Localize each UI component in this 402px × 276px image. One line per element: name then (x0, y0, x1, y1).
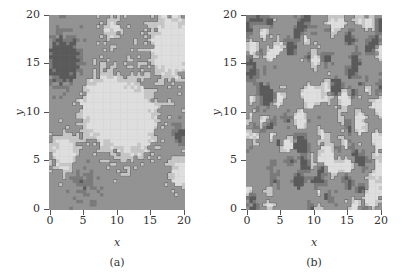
panel-caption: (a) (49, 256, 185, 269)
x-axis-title: x (49, 236, 185, 249)
y-tick-label: 0 (10, 203, 40, 215)
y-tick (241, 209, 246, 210)
x-tick-label: 20 (172, 215, 196, 227)
panel-caption: (b) (246, 256, 382, 269)
x-tick-label: 15 (138, 215, 162, 227)
x-tick-label: 0 (38, 215, 62, 227)
y-tick-label: 5 (10, 154, 40, 166)
y-tick (241, 15, 246, 16)
y-tick (44, 63, 49, 64)
y-tick (241, 112, 246, 113)
x-tick-label: 20 (369, 215, 393, 227)
x-tick-label: 15 (335, 215, 359, 227)
y-tick (44, 15, 49, 16)
x-tick-label: 5 (71, 215, 95, 227)
y-tick-label: 15 (207, 57, 237, 69)
x-tick-label: 5 (268, 215, 292, 227)
chart-panel-b: 20 15 10 5 0 0 5 10 15 20 x y (b) (197, 0, 398, 276)
y-tick (44, 160, 49, 161)
x-tick-label: 10 (105, 215, 129, 227)
y-tick-label: 0 (207, 203, 237, 215)
y-tick (44, 209, 49, 210)
y-tick-label: 5 (207, 154, 237, 166)
heatmap-a (49, 15, 185, 210)
x-tick-label: 10 (302, 215, 326, 227)
x-tick-label: 0 (235, 215, 259, 227)
x-axis-title: x (246, 236, 382, 249)
y-tick (241, 63, 246, 64)
y-tick-label: 15 (10, 57, 40, 69)
y-tick (241, 160, 246, 161)
y-tick-label: 20 (207, 9, 237, 21)
y-tick-label: 20 (10, 9, 40, 21)
heatmap-b (246, 15, 382, 210)
y-axis-title: y (13, 109, 26, 115)
chart-panel-a: 20 15 10 5 0 0 5 10 15 20 x y (a) (0, 0, 201, 276)
y-tick (44, 112, 49, 113)
y-axis-title: y (210, 109, 223, 115)
